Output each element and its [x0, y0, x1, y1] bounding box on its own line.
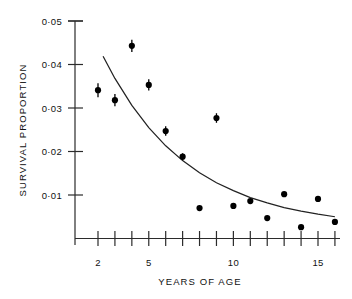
- y-tick-label: 0·02: [42, 146, 62, 157]
- y-axis: 0·010·020·030·040·05 SURVIVAL PROPORTION: [17, 16, 83, 246]
- data-point: [281, 191, 287, 197]
- data-point: [315, 196, 321, 202]
- x-tick-label: 15: [312, 257, 323, 268]
- x-axis: 251015 YEARS OF AGE: [75, 231, 340, 287]
- data-point: [146, 82, 152, 88]
- y-tick-label: 0·05: [42, 16, 62, 27]
- data-point: [112, 97, 118, 103]
- data-point: [230, 203, 236, 209]
- y-tick-label: 0·01: [42, 190, 62, 201]
- data-point: [213, 115, 219, 121]
- x-tick-label: 5: [146, 257, 152, 268]
- data-point: [298, 224, 304, 230]
- data-point: [95, 87, 101, 93]
- x-tick-label: 2: [95, 257, 101, 268]
- chart-figure: 0·010·020·030·040·05 SURVIVAL PROPORTION…: [0, 0, 352, 299]
- data-point: [264, 215, 270, 221]
- y-tick-label: 0·03: [42, 103, 62, 114]
- survival-proportion-scatter-chart: 0·010·020·030·040·05 SURVIVAL PROPORTION…: [0, 0, 352, 299]
- x-axis-tick-labels: 251015: [95, 257, 323, 268]
- x-axis-title: YEARS OF AGE: [158, 276, 241, 287]
- fitted-curve: [103, 56, 335, 217]
- data-points: [95, 43, 338, 231]
- y-axis-title: SURVIVAL PROPORTION: [17, 64, 28, 197]
- x-tick-label: 10: [228, 257, 239, 268]
- data-point: [247, 198, 253, 204]
- data-point: [163, 128, 169, 134]
- data-point: [332, 219, 338, 225]
- data-point: [180, 154, 186, 160]
- y-tick-label: 0·04: [42, 59, 62, 70]
- data-point: [196, 205, 202, 211]
- data-point: [129, 43, 135, 49]
- y-axis-tick-labels: 0·010·020·030·040·05: [42, 16, 62, 201]
